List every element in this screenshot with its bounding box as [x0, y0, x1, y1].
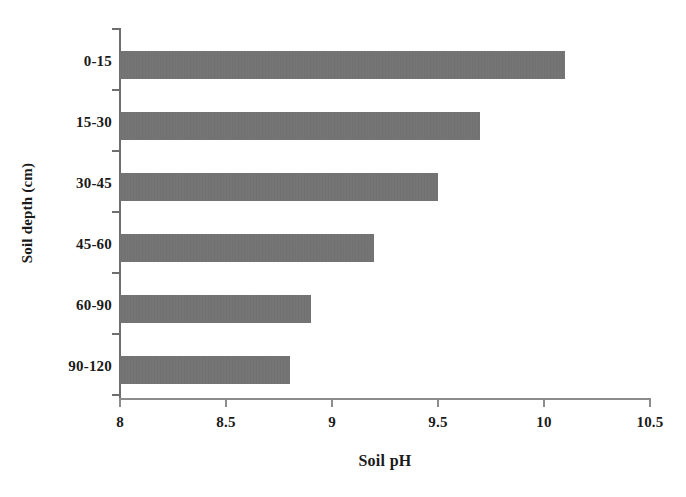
y-axis-tick: [112, 89, 120, 91]
x-axis-tick-label: 9: [328, 414, 336, 431]
x-axis-tick-label: 8.5: [216, 414, 235, 431]
y-axis-tick-labels: 0-15 15-30 30-45 45-60 60-90 90-120: [34, 28, 112, 398]
bar-90-120: [120, 356, 290, 384]
x-axis-title: Soil pH: [120, 452, 650, 470]
y-axis-line: [119, 28, 121, 398]
y-axis-tick: [112, 211, 120, 213]
y-axis-tick: [112, 394, 120, 396]
x-axis-tick: [543, 398, 545, 407]
x-axis-tick: [437, 398, 439, 407]
y-axis-tick-label: 90-120: [34, 356, 112, 376]
y-axis-tick-label: 15-30: [34, 112, 112, 132]
y-axis-tick: [112, 333, 120, 335]
x-axis-tick: [331, 398, 333, 407]
x-axis-tick-label: 10.5: [636, 414, 663, 431]
bar-30-45: [120, 173, 438, 201]
y-axis-tick-label: 0-15: [34, 51, 112, 71]
bar-60-90: [120, 295, 311, 323]
bar-45-60: [120, 234, 374, 262]
y-axis-tick: [112, 28, 120, 30]
chart-figure: Soil depth (cm) 0-15 15-30 30-45 45-60 6…: [0, 0, 686, 497]
x-axis-tick-label: 9.5: [428, 414, 447, 431]
y-axis-tick-label: 60-90: [34, 295, 112, 315]
x-axis-tick-label: 8: [116, 414, 124, 431]
y-axis-tick-label: 30-45: [34, 173, 112, 193]
bar-15-30: [120, 112, 480, 140]
bar-0-15: [120, 51, 565, 79]
x-axis-tick: [119, 398, 121, 407]
x-axis-tick: [649, 398, 651, 407]
y-axis-tick-label: 45-60: [34, 234, 112, 254]
x-axis-tick-label: 10: [536, 414, 551, 431]
y-axis-tick: [112, 272, 120, 274]
x-axis-tick: [225, 398, 227, 407]
plot-area: 8 8.5 9 9.5 10 10.5: [120, 28, 650, 398]
x-axis-line: [119, 398, 650, 400]
y-axis-tick: [112, 150, 120, 152]
